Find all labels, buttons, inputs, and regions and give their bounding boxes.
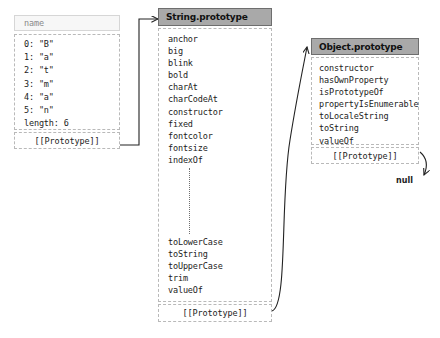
prototype-chain-diagram: name 0: "B" 1: "a" 2: "t" 3: "m" 4: "a" … <box>0 0 440 338</box>
string-object-property-list: 0: "B" 1: "a" 2: "t" 3: "m" 4: "a" 5: "n… <box>15 35 119 133</box>
member-row: fontcolor <box>168 130 271 142</box>
member-row: valueOf <box>168 284 271 296</box>
member-row: fixed <box>168 118 271 130</box>
string-prototype-node: String.prototype anchor big blink bold c… <box>158 8 272 322</box>
member-row: charCodeAt <box>168 93 271 105</box>
object-prototype-member-list: constructor hasOwnProperty isPrototypeOf… <box>312 58 418 150</box>
member-row: hasOwnProperty <box>319 74 418 86</box>
property-row: 3: "m" <box>24 78 119 91</box>
string-object-header: name <box>14 15 120 31</box>
property-row: length: 6 <box>24 117 119 130</box>
property-row: 4: "a" <box>24 91 119 104</box>
member-row: indexOf <box>168 154 271 166</box>
object-prototype-node: Object.prototype constructor hasOwnPrope… <box>311 38 419 164</box>
prototype-slot-label: [[Prototype]] <box>182 308 247 318</box>
prototype-slot-label: [[Prototype]] <box>332 151 397 161</box>
member-row: toLowerCase <box>168 236 271 248</box>
member-row: fontsize <box>168 142 271 154</box>
member-row: propertyIsEnumerable <box>319 98 418 110</box>
string-object-header-label: name <box>24 18 44 28</box>
string-prototype-prototype-slot: [[Prototype]] <box>158 304 272 322</box>
string-prototype-header: String.prototype <box>158 8 272 26</box>
member-row: valueOf <box>319 135 418 147</box>
object-prototype-members: constructor hasOwnProperty isPrototypeOf… <box>311 57 419 145</box>
null-terminator-label: null <box>396 176 413 185</box>
members-ellipsis <box>168 166 271 236</box>
member-row: anchor <box>168 33 271 45</box>
object-prototype-prototype-slot: [[Prototype]] <box>311 147 419 164</box>
member-row: constructor <box>168 106 271 118</box>
member-row: toString <box>168 248 271 260</box>
connector-string-to-object-prototype <box>272 47 307 311</box>
property-row: 0: "B" <box>24 38 119 51</box>
member-row: toUpperCase <box>168 260 271 272</box>
member-row: toLocaleString <box>319 110 418 122</box>
member-row: isPrototypeOf <box>319 86 418 98</box>
property-row: 5: "n" <box>24 104 119 117</box>
property-row: 1: "a" <box>24 51 119 64</box>
prototype-slot-label: [[Prototype]] <box>34 136 99 146</box>
object-prototype-header: Object.prototype <box>311 38 419 55</box>
string-prototype-member-list-top: anchor big blink bold charAt charCodeAt … <box>159 29 271 300</box>
string-object-node: name 0: "B" 1: "a" 2: "t" 3: "m" 4: "a" … <box>14 15 120 149</box>
connector-object-prototype-to-null <box>420 152 426 175</box>
string-prototype-header-label: String.prototype <box>166 12 248 22</box>
property-row: 2: "t" <box>24 64 119 77</box>
member-row: big <box>168 45 271 57</box>
connector-object-to-string-prototype <box>120 19 158 145</box>
object-prototype-header-label: Object.prototype <box>319 42 402 52</box>
member-row: constructor <box>319 62 418 74</box>
member-row: bold <box>168 69 271 81</box>
member-row: blink <box>168 57 271 69</box>
member-row: trim <box>168 272 271 284</box>
string-prototype-members: anchor big blink bold charAt charCodeAt … <box>158 28 272 302</box>
string-object-properties: 0: "B" 1: "a" 2: "t" 3: "m" 4: "a" 5: "n… <box>14 34 120 130</box>
member-row: toString <box>319 122 418 134</box>
member-row: charAt <box>168 81 271 93</box>
string-object-prototype-slot: [[Prototype]] <box>14 132 120 149</box>
